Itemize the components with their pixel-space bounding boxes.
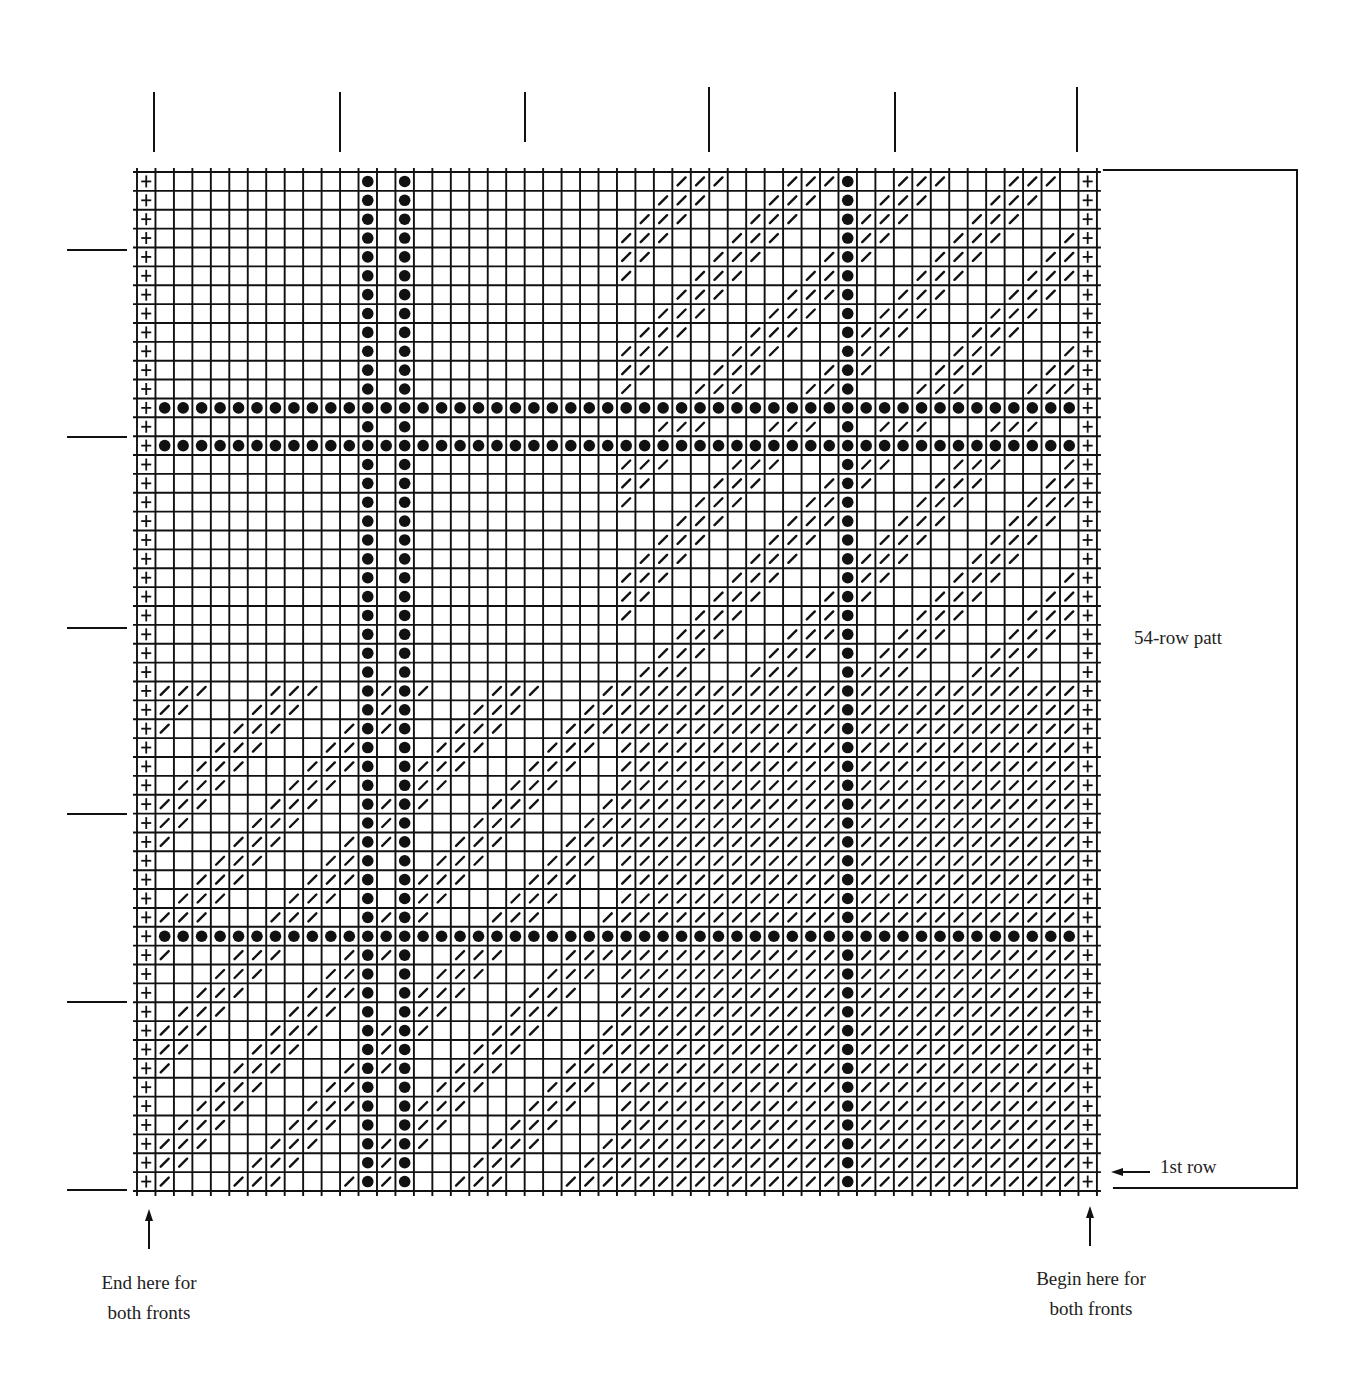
- dot-stitch-icon: [399, 1044, 411, 1056]
- slash-stitch-icon: [585, 1045, 593, 1053]
- slash-stitch-icon: [807, 725, 815, 733]
- slash-stitch-icon: [1028, 536, 1036, 544]
- slash-stitch-icon: [733, 479, 741, 487]
- slash-stitch-icon: [807, 706, 815, 714]
- dot-stitch-icon: [842, 817, 854, 829]
- edge-stitch-icon: [141, 628, 151, 640]
- slash-stitch-icon: [733, 593, 741, 601]
- slash-stitch-icon: [862, 479, 870, 487]
- slash-stitch-icon: [733, 970, 741, 978]
- slash-stitch-icon: [475, 819, 483, 827]
- dot-stitch-icon: [362, 1006, 374, 1018]
- edge-stitch-icon: [1083, 798, 1093, 810]
- slash-stitch-icon: [438, 1008, 446, 1016]
- slash-stitch-icon: [604, 1140, 612, 1148]
- slash-stitch-icon: [253, 744, 261, 752]
- slash-stitch-icon: [770, 838, 778, 846]
- edge-stitch-icon: [141, 1081, 151, 1093]
- slash-stitch-icon: [345, 951, 353, 959]
- dot-stitch-icon: [602, 930, 614, 942]
- slash-stitch-icon: [308, 687, 316, 695]
- edge-stitch-icon: [1083, 402, 1093, 414]
- slash-stitch-icon: [456, 725, 464, 733]
- slash-stitch-icon: [918, 1159, 926, 1167]
- slash-stitch-icon: [1010, 668, 1018, 676]
- slash-stitch-icon: [1028, 1159, 1036, 1167]
- edge-stitch-icon: [141, 666, 151, 678]
- slash-stitch-icon: [345, 970, 353, 978]
- dot-stitch-icon: [897, 440, 909, 452]
- slash-stitch-icon: [659, 1102, 667, 1110]
- slash-stitch-icon: [954, 479, 962, 487]
- slash-stitch-icon: [678, 989, 686, 997]
- slash-stitch-icon: [696, 1027, 704, 1035]
- slash-stitch-icon: [585, 725, 593, 733]
- slash-stitch-icon: [641, 913, 649, 921]
- slash-stitch-icon: [456, 951, 464, 959]
- slash-stitch-icon: [678, 913, 686, 921]
- dot-stitch-icon: [362, 308, 374, 320]
- slash-stitch-icon: [382, 1140, 390, 1148]
- slash-stitch-icon: [1065, 1102, 1073, 1110]
- slash-stitch-icon: [511, 1045, 519, 1053]
- slash-stitch-icon: [235, 1178, 243, 1186]
- slash-stitch-icon: [881, 725, 889, 733]
- slash-stitch-icon: [862, 1027, 870, 1035]
- slash-stitch-icon: [881, 310, 889, 318]
- slash-stitch-icon: [714, 781, 722, 789]
- slash-stitch-icon: [825, 593, 833, 601]
- slash-stitch-icon: [1028, 649, 1036, 657]
- dot-stitch-icon: [842, 1044, 854, 1056]
- slash-stitch-icon: [751, 706, 759, 714]
- slash-stitch-icon: [604, 1064, 612, 1072]
- slash-stitch-icon: [881, 989, 889, 997]
- slash-stitch-icon: [788, 951, 796, 959]
- slash-stitch-icon: [751, 913, 759, 921]
- dot-stitch-icon: [399, 1176, 411, 1188]
- slash-stitch-icon: [622, 989, 630, 997]
- dot-stitch-icon: [362, 949, 374, 961]
- slash-stitch-icon: [881, 328, 889, 336]
- slash-stitch-icon: [216, 989, 224, 997]
- slash-stitch-icon: [714, 800, 722, 808]
- dot-stitch-icon: [842, 1063, 854, 1075]
- edge-stitch-icon: [1083, 1062, 1093, 1074]
- slash-stitch-icon: [641, 762, 649, 770]
- slash-stitch-icon: [770, 1045, 778, 1053]
- dot-stitch-icon: [842, 779, 854, 791]
- slash-stitch-icon: [161, 1159, 169, 1167]
- edge-stitch-icon: [141, 1119, 151, 1131]
- slash-stitch-icon: [1047, 593, 1055, 601]
- dot-stitch-icon: [233, 930, 245, 942]
- dot-stitch-icon: [159, 402, 171, 414]
- slash-stitch-icon: [973, 574, 981, 582]
- dot-stitch-icon: [362, 478, 374, 490]
- knitting-chart: [0, 0, 1360, 1386]
- dot-stitch-icon: [750, 440, 762, 452]
- slash-stitch-icon: [973, 555, 981, 563]
- slash-stitch-icon: [161, 819, 169, 827]
- slash-stitch-icon: [899, 989, 907, 997]
- dot-stitch-icon: [380, 930, 392, 942]
- slash-stitch-icon: [936, 630, 944, 638]
- slash-stitch-icon: [807, 1064, 815, 1072]
- slash-stitch-icon: [954, 725, 962, 733]
- slash-stitch-icon: [678, 1159, 686, 1167]
- dot-stitch-icon: [362, 534, 374, 546]
- slash-stitch-icon: [807, 1121, 815, 1129]
- slash-stitch-icon: [807, 989, 815, 997]
- slash-stitch-icon: [419, 781, 427, 789]
- slash-stitch-icon: [659, 725, 667, 733]
- slash-stitch-icon: [881, 819, 889, 827]
- slash-stitch-icon: [1028, 970, 1036, 978]
- slash-stitch-icon: [1010, 196, 1018, 204]
- slash-stitch-icon: [641, 951, 649, 959]
- slash-stitch-icon: [714, 630, 722, 638]
- slash-stitch-icon: [825, 1140, 833, 1148]
- slash-stitch-icon: [954, 234, 962, 242]
- slash-stitch-icon: [954, 366, 962, 374]
- slash-stitch-icon: [714, 385, 722, 393]
- slash-stitch-icon: [788, 1027, 796, 1035]
- slash-stitch-icon: [382, 1064, 390, 1072]
- slash-stitch-icon: [530, 894, 538, 902]
